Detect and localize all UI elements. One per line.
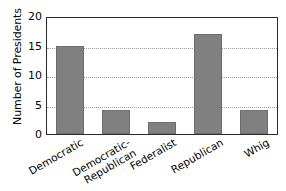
bar[interactable]: [194, 34, 222, 134]
bar[interactable]: [148, 122, 176, 134]
bar[interactable]: [240, 110, 268, 134]
bar[interactable]: [56, 46, 84, 135]
y-tick-label: 15: [20, 41, 42, 52]
bar-slot: [185, 18, 231, 134]
y-tick-label: 5: [20, 100, 42, 111]
y-tick-label: 10: [20, 70, 42, 81]
bar-slot: [93, 18, 139, 134]
bar[interactable]: [102, 110, 130, 134]
bar-chart: Number of Presidents 20151050 Democratic…: [0, 0, 286, 191]
bar-slot: [139, 18, 185, 134]
bars-container: [47, 18, 277, 134]
y-tick-label: 0: [20, 129, 42, 140]
bar-slot: [47, 18, 93, 134]
bar-slot: [231, 18, 277, 134]
y-tick-label: 20: [20, 11, 42, 22]
x-axis-tick-labels: DemocraticDemocratic- RepublicanFederali…: [46, 136, 278, 191]
plot-area: [46, 17, 278, 135]
